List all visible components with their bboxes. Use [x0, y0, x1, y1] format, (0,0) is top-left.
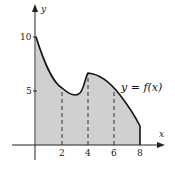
x-tick-label-6: 6 [111, 148, 117, 158]
y-tick-label-10: 10 [20, 32, 32, 42]
x-tick-label-4: 4 [85, 148, 91, 158]
x-axis-arrow-icon [157, 142, 165, 148]
chart: 10 5 2 4 6 8 y x y = f(x) [0, 0, 175, 170]
curve-label: y = f(x) [120, 81, 162, 94]
y-axis-arrow-icon [32, 4, 38, 12]
y-tick-label-5: 5 [26, 86, 32, 96]
x-tick-label-2: 2 [59, 148, 65, 158]
y-axis-label: y [40, 4, 47, 14]
x-axis-label: x [159, 129, 164, 139]
x-tick-label-8: 8 [137, 148, 143, 158]
